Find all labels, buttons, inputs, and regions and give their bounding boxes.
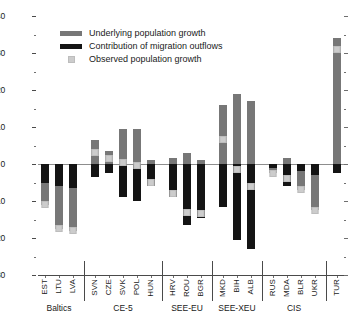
y-tick-mark-minor <box>34 183 36 184</box>
y-tick-mark <box>344 238 348 239</box>
bar-segment-underlying[interactable] <box>233 94 242 164</box>
y-tick-mark <box>344 53 348 54</box>
x-tick-label: HRV <box>169 279 177 296</box>
x-tick-label: SVK <box>119 279 127 295</box>
group-label: Baltics <box>29 304 89 312</box>
bar-segment-migration[interactable] <box>105 164 114 173</box>
bar-segment-migration[interactable] <box>41 164 50 183</box>
y-tick-mark <box>32 16 36 17</box>
observed-growth-marker[interactable] <box>133 162 140 169</box>
observed-growth-marker[interactable] <box>169 190 176 197</box>
bar-segment-migration[interactable] <box>247 164 256 249</box>
bar-column[interactable] <box>105 16 114 275</box>
bar-segment-migration[interactable] <box>183 164 192 225</box>
bar-column[interactable] <box>297 16 306 275</box>
observed-growth-marker[interactable] <box>233 166 240 173</box>
observed-growth-marker[interactable] <box>105 155 112 162</box>
bar-column[interactable] <box>183 16 192 275</box>
x-tick-label: POL <box>133 279 141 295</box>
bar-segment-migration[interactable] <box>219 164 228 207</box>
bar-column[interactable] <box>197 16 206 275</box>
bar-column[interactable] <box>333 16 342 275</box>
bar-column[interactable] <box>69 16 78 275</box>
y-tick-mark-minor <box>344 146 346 147</box>
y-tick-mark-minor <box>344 257 346 258</box>
y-tick-label: 30 <box>0 49 5 58</box>
group-separator <box>212 261 213 301</box>
y-tick-mark-minor <box>34 257 36 258</box>
observed-growth-marker[interactable] <box>41 201 48 208</box>
y-tick-mark-minor <box>344 35 346 36</box>
observed-growth-marker[interactable] <box>269 170 276 177</box>
bar-column[interactable] <box>169 16 178 275</box>
observed-growth-marker[interactable] <box>197 210 204 217</box>
y-tick-mark <box>344 16 348 17</box>
bar-segment-underlying[interactable] <box>219 105 228 164</box>
bar-column[interactable] <box>233 16 242 275</box>
bar-column[interactable] <box>133 16 142 275</box>
x-tick-label: UKR <box>311 279 319 296</box>
bar-segment-migration[interactable] <box>233 164 242 240</box>
group-separator <box>262 261 263 301</box>
bar-segment-migration[interactable] <box>91 164 100 177</box>
observed-growth-marker[interactable] <box>183 209 190 216</box>
observed-growth-marker[interactable] <box>55 225 62 232</box>
x-tick-label: BLR <box>297 279 305 295</box>
y-tick-mark <box>32 275 36 276</box>
y-tick-mark-minor <box>34 72 36 73</box>
bar-segment-underlying[interactable] <box>247 101 256 164</box>
bar-segment-underlying[interactable] <box>333 38 342 164</box>
x-tick-label: EST <box>41 279 49 295</box>
y-tick-mark <box>32 53 36 54</box>
bar-segment-underlying[interactable] <box>133 129 142 164</box>
observed-growth-marker[interactable] <box>311 207 318 214</box>
observed-growth-marker[interactable] <box>247 183 254 190</box>
bar-column[interactable] <box>283 16 292 275</box>
bar-column[interactable] <box>55 16 64 275</box>
bar-segment-migration[interactable] <box>311 164 320 175</box>
bar-segment-migration[interactable] <box>119 164 128 197</box>
group-separator <box>84 261 85 301</box>
bar-column[interactable] <box>311 16 320 275</box>
group-label: CIS <box>264 304 324 312</box>
y-tick-mark-minor <box>34 35 36 36</box>
bar-segment-migration[interactable] <box>333 164 342 173</box>
y-tick-mark <box>344 90 348 91</box>
y-tick-label: -20 <box>0 234 5 243</box>
y-tick-label: -10 <box>0 197 5 206</box>
x-tick-label: BGR <box>197 279 205 297</box>
observed-growth-marker[interactable] <box>91 149 98 156</box>
bar-column[interactable] <box>247 16 256 275</box>
y-tick-mark-minor <box>344 109 346 110</box>
x-tick-label: TUR <box>333 279 341 296</box>
bar-column[interactable] <box>219 16 228 275</box>
bar-segment-migration[interactable] <box>133 164 142 201</box>
x-tick-label: ROU <box>183 279 191 297</box>
y-tick-mark-minor <box>344 72 346 73</box>
bar-column[interactable] <box>119 16 128 275</box>
x-tick-label: LVA <box>69 279 77 293</box>
observed-growth-marker[interactable] <box>147 179 154 186</box>
observed-growth-marker[interactable] <box>69 227 76 234</box>
bar-segment-migration[interactable] <box>69 164 78 188</box>
bar-segment-migration[interactable] <box>297 164 306 171</box>
y-tick-mark <box>32 201 36 202</box>
y-tick-label: 20 <box>0 86 5 95</box>
observed-growth-marker[interactable] <box>333 46 340 53</box>
bar-column[interactable] <box>147 16 156 275</box>
observed-growth-marker[interactable] <box>119 159 126 166</box>
y-tick-mark <box>32 127 36 128</box>
bar-segment-migration[interactable] <box>269 164 278 168</box>
observed-growth-marker[interactable] <box>283 175 290 182</box>
y-tick-mark-minor <box>344 183 346 184</box>
observed-growth-marker[interactable] <box>219 136 226 143</box>
y-tick-mark <box>344 275 348 276</box>
y-tick-mark <box>344 127 348 128</box>
bar-column[interactable] <box>91 16 100 275</box>
bar-segment-migration[interactable] <box>55 164 64 186</box>
bar-segment-underlying[interactable] <box>183 153 192 164</box>
group-label: SEE-XEU <box>207 304 267 312</box>
bar-column[interactable] <box>41 16 50 275</box>
bar-column[interactable] <box>269 16 278 275</box>
observed-growth-marker[interactable] <box>297 186 304 193</box>
